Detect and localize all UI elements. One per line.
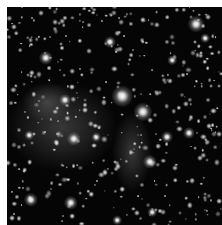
faint-star	[52, 9, 57, 14]
faint-star	[195, 131, 198, 134]
faint-star	[133, 95, 136, 98]
faint-star	[205, 14, 211, 20]
faint-star	[55, 173, 59, 177]
faint-star	[14, 31, 19, 36]
faint-star	[101, 158, 106, 163]
faint-star	[22, 169, 26, 173]
faint-star	[58, 69, 61, 72]
faint-star	[111, 66, 117, 72]
bright-star	[24, 130, 34, 140]
faint-star	[84, 98, 88, 102]
faint-star	[219, 72, 222, 76]
faint-star	[31, 81, 33, 83]
bright-star	[111, 85, 133, 107]
faint-star	[206, 98, 211, 103]
faint-star	[15, 85, 18, 88]
faint-star	[216, 107, 218, 109]
faint-star	[114, 166, 119, 171]
faint-star	[11, 24, 17, 30]
bright-star	[104, 36, 116, 48]
faint-star	[205, 139, 210, 144]
faint-star	[12, 162, 17, 167]
faint-star	[59, 45, 64, 50]
faint-star	[200, 85, 204, 89]
faint-star	[215, 211, 221, 217]
faint-star	[166, 73, 169, 76]
faint-star	[61, 220, 64, 223]
faint-star	[189, 102, 193, 106]
faint-star	[139, 55, 141, 57]
faint-star	[157, 90, 161, 94]
faint-star	[52, 148, 56, 152]
faint-star	[7, 160, 11, 166]
faint-star	[153, 22, 159, 28]
faint-star	[85, 198, 87, 200]
faint-star	[196, 118, 201, 123]
faint-star	[18, 21, 21, 24]
faint-star	[57, 61, 59, 63]
faint-star	[88, 192, 94, 198]
faint-star	[37, 35, 40, 38]
faint-star	[114, 190, 117, 193]
faint-star	[120, 113, 124, 117]
faint-star	[30, 141, 34, 145]
faint-star	[104, 14, 108, 18]
faint-star	[12, 201, 17, 206]
faint-star	[9, 215, 15, 221]
faint-star	[98, 171, 104, 177]
faint-star	[79, 73, 83, 77]
faint-star	[41, 94, 46, 99]
faint-star	[165, 183, 169, 187]
faint-star	[183, 101, 189, 107]
faint-star	[70, 16, 74, 20]
faint-star	[213, 79, 216, 82]
bright-star	[161, 131, 173, 143]
faint-star	[206, 123, 212, 129]
faint-star	[41, 130, 47, 136]
faint-star	[48, 7, 52, 10]
bright-star	[167, 55, 177, 65]
faint-star	[20, 203, 23, 206]
star-field-image	[7, 7, 222, 225]
bright-star	[147, 207, 157, 217]
faint-star	[178, 211, 182, 215]
faint-star	[217, 84, 221, 88]
faint-star	[167, 78, 173, 84]
faint-star	[79, 67, 82, 70]
faint-star	[25, 186, 31, 192]
faint-star	[155, 133, 158, 136]
faint-star	[20, 71, 23, 74]
faint-star	[20, 42, 23, 45]
faint-star	[96, 86, 102, 92]
faint-star	[113, 206, 115, 208]
faint-star	[193, 146, 197, 150]
faint-star	[176, 105, 181, 110]
faint-star	[168, 204, 170, 206]
faint-star	[77, 38, 82, 43]
faint-star	[149, 93, 152, 96]
faint-star	[82, 7, 87, 11]
faint-star	[86, 49, 92, 55]
faint-star	[49, 181, 54, 186]
bright-star	[64, 196, 78, 210]
faint-star	[18, 168, 21, 171]
faint-star	[140, 17, 146, 23]
faint-star	[216, 198, 222, 204]
faint-star	[28, 45, 31, 48]
faint-star	[13, 101, 17, 105]
faint-star	[96, 14, 98, 16]
faint-star	[199, 51, 203, 55]
faint-star	[134, 210, 140, 216]
faint-star	[202, 176, 205, 179]
faint-star	[60, 163, 64, 167]
faint-star	[203, 192, 207, 196]
faint-star	[175, 163, 179, 167]
faint-star	[105, 81, 108, 84]
faint-star	[49, 36, 52, 39]
faint-star	[214, 36, 217, 39]
faint-star	[66, 111, 70, 115]
faint-star	[20, 7, 23, 9]
faint-star	[190, 145, 193, 148]
bright-star	[59, 94, 71, 106]
faint-star	[163, 194, 166, 197]
